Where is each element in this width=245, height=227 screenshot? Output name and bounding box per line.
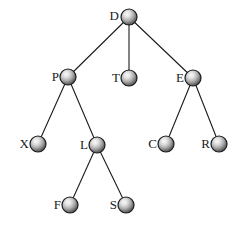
tree-node-x[interactable] (30, 136, 46, 152)
tree-edge-l-f (70, 145, 97, 205)
tree-edge-e-r (193, 78, 219, 144)
tree-node-d[interactable] (121, 9, 137, 25)
tree-node-label-l: L (80, 138, 88, 151)
tree-diagram-svg (0, 0, 245, 227)
tree-node-label-s: S (110, 198, 117, 211)
tree-node-p[interactable] (60, 69, 76, 85)
tree-node-label-d: D (110, 9, 119, 22)
tree-edge-d-p (68, 17, 129, 77)
tree-node-label-e: E (176, 71, 184, 84)
tree-node-label-t: T (112, 71, 120, 84)
tree-edge-e-c (166, 78, 193, 144)
tree-node-t[interactable] (121, 70, 137, 86)
tree-node-l[interactable] (89, 137, 105, 153)
tree-node-label-r: R (201, 137, 210, 150)
tree-edge-p-x (38, 77, 68, 144)
tree-node-c[interactable] (158, 136, 174, 152)
tree-edges-group (38, 17, 219, 205)
tree-diagram-canvas: DPTEXLCRFS (0, 0, 245, 227)
tree-edge-p-l (68, 77, 97, 145)
tree-node-label-f: F (54, 198, 61, 211)
tree-node-label-p: P (52, 70, 59, 83)
tree-node-r[interactable] (211, 136, 227, 152)
tree-node-label-c: C (148, 137, 157, 150)
tree-node-label-x: X (20, 137, 29, 150)
tree-node-e[interactable] (185, 70, 201, 86)
tree-node-s[interactable] (118, 197, 134, 213)
tree-node-f[interactable] (62, 197, 78, 213)
